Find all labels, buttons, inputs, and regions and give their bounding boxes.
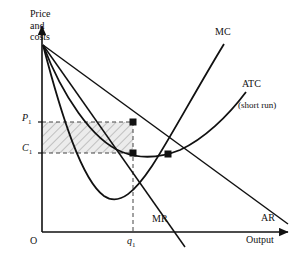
y-tick-label-c1: C1 bbox=[22, 142, 32, 159]
curve-label-mr: MR bbox=[152, 213, 168, 225]
curve-label-atc-note: (short run) bbox=[238, 100, 276, 112]
x-axis-label: Output bbox=[246, 234, 274, 246]
economics-diagram: Price and costs Output MC ATC (short run… bbox=[0, 0, 308, 258]
origin-label: O bbox=[30, 235, 37, 247]
curve-label-atc: ATC bbox=[242, 78, 261, 90]
cost-point-marker bbox=[130, 150, 137, 157]
profit-rectangle bbox=[42, 122, 133, 153]
intersection-point-marker bbox=[165, 151, 172, 158]
curve-label-ar: AR bbox=[261, 212, 275, 224]
x-tick-label-q1: q1 bbox=[127, 235, 136, 252]
y-tick-label-p1: P1 bbox=[22, 112, 32, 129]
curve-label-mc: MC bbox=[215, 26, 231, 38]
price-point-marker bbox=[130, 119, 137, 126]
y-axis-label: Price and costs bbox=[30, 8, 51, 43]
